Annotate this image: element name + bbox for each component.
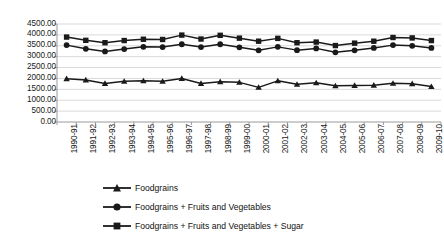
- x-axis-tick-label: 1995-96: [166, 124, 175, 153]
- data-point: [294, 40, 299, 45]
- triangle-marker-icon: [103, 182, 131, 194]
- line-chart-svg: [0, 0, 444, 130]
- data-point: [64, 42, 70, 48]
- data-point: [141, 44, 147, 50]
- x-axis-tick-label: 2007-08: [396, 124, 405, 153]
- data-point: [160, 37, 165, 42]
- x-axis-tick-label: 1994-95: [147, 124, 156, 153]
- data-point: [313, 45, 319, 51]
- data-point: [294, 47, 300, 53]
- x-axis-tick-label: 1992-93: [108, 124, 117, 153]
- y-axis-tick-label: 2000.00: [2, 74, 56, 82]
- circle-marker-icon: [103, 201, 131, 213]
- series-0: [63, 75, 434, 90]
- chart-legend: Foodgrains Foodgrains + Fruits and Veget…: [0, 180, 444, 238]
- y-axis-tick-label: 3000.00: [2, 52, 56, 60]
- data-point: [256, 47, 262, 53]
- x-axis-tick-label: 2003-04: [320, 124, 329, 153]
- data-point: [122, 38, 127, 43]
- x-axis-tick-label: 2002-03: [300, 124, 309, 153]
- plot-area: [0, 0, 444, 130]
- y-axis-tick-label: 1500.00: [2, 85, 56, 93]
- data-point: [237, 44, 243, 50]
- x-axis-tick-label: 1997-98: [204, 124, 213, 153]
- x-axis-tick-label: 1993-94: [128, 124, 137, 153]
- legend-item-foodgrains: Foodgrains: [103, 180, 178, 196]
- legend-item-foodgrains-fruits-vegetables: Foodgrains + Fruits and Vegetables: [103, 199, 271, 215]
- data-point: [409, 43, 415, 49]
- data-point: [160, 44, 166, 50]
- data-point: [217, 41, 223, 47]
- data-point: [237, 35, 242, 40]
- x-axis-tick-labels: 1990-911991-921992-931993-941994-951995-…: [0, 124, 444, 180]
- y-axis-tick-label: 500.00: [2, 107, 56, 115]
- data-point: [64, 34, 69, 39]
- x-axis-tick-label: 1998-99: [224, 124, 233, 153]
- y-axis-tick-labels: 0.00500.001000.001500.002000.002500.0030…: [0, 0, 56, 130]
- data-point: [352, 47, 358, 53]
- x-axis-tick-label: 2001-02: [281, 124, 290, 153]
- data-point: [198, 44, 204, 50]
- data-point: [390, 35, 395, 40]
- data-point: [314, 39, 319, 44]
- data-point: [429, 45, 435, 51]
- y-axis-tick-label: 2500.00: [2, 63, 56, 71]
- x-axis-tick-label: 2000-01: [262, 124, 271, 153]
- data-point: [275, 44, 281, 50]
- data-point: [102, 49, 108, 55]
- data-point: [333, 49, 339, 55]
- x-axis-tick-label: 2004-05: [339, 124, 348, 153]
- data-point: [256, 39, 261, 44]
- legend-label-foodgrains-fruits-vegetables-sugar: Foodgrains + Fruits and Vegetables + Sug…: [135, 221, 304, 231]
- data-point: [275, 36, 280, 41]
- data-point: [83, 46, 89, 52]
- data-point: [218, 33, 223, 38]
- data-point: [371, 39, 376, 44]
- data-point: [179, 41, 185, 47]
- x-axis-tick-label: 2006-07: [377, 124, 386, 153]
- series-1: [64, 41, 435, 55]
- x-axis-tick-label: 1990-91: [70, 124, 79, 153]
- data-point: [179, 32, 184, 37]
- y-axis-tick-label: 1000.00: [2, 96, 56, 104]
- data-point: [390, 42, 396, 48]
- data-point: [352, 40, 357, 45]
- y-axis-tick-label: 4500.00: [2, 20, 56, 28]
- data-point: [83, 38, 88, 43]
- data-point: [198, 36, 203, 41]
- data-point: [333, 43, 338, 48]
- legend-label-foodgrains-fruits-vegetables: Foodgrains + Fruits and Vegetables: [135, 202, 271, 212]
- data-point: [371, 45, 377, 51]
- x-axis-tick-label: 2008-09: [416, 124, 425, 153]
- x-axis-tick-label: 1996-97: [185, 124, 194, 153]
- data-point: [121, 46, 127, 52]
- x-axis-tick-label: 1999-00: [243, 124, 252, 153]
- y-axis-tick-label: 3500.00: [2, 41, 56, 49]
- chart-container: 0.00500.001000.001500.002000.002500.0030…: [0, 0, 444, 238]
- data-point: [410, 35, 415, 40]
- legend-label-foodgrains: Foodgrains: [135, 183, 178, 193]
- x-axis-tick-label: 2009-10: [435, 124, 444, 153]
- x-axis-tick-label: 2005-06: [358, 124, 367, 153]
- y-axis-tick-label: 4000.00: [2, 30, 56, 38]
- x-axis-tick-label: 1991-92: [89, 124, 98, 153]
- legend-item-foodgrains-fruits-vegetables-sugar: Foodgrains + Fruits and Vegetables + Sug…: [103, 218, 304, 234]
- data-point: [102, 40, 107, 45]
- data-point: [429, 38, 434, 43]
- square-marker-icon: [103, 220, 131, 232]
- data-point: [141, 37, 146, 42]
